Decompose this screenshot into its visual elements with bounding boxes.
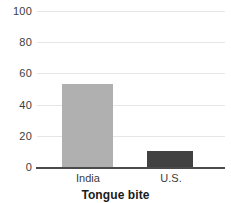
ytick-label-40: 40	[2, 100, 32, 111]
bar-chart: 100 80 60 40 20 0 India U.S. Tongue bite	[0, 0, 231, 203]
ytick-label-20: 20	[2, 131, 32, 142]
category-label-india: India	[52, 172, 124, 185]
ytick-label-80: 80	[2, 37, 32, 48]
ytick-label-100: 100	[2, 6, 32, 17]
ytick-label-60: 60	[2, 68, 32, 79]
bar-india	[62, 84, 113, 167]
ytick-label-0: 0	[2, 162, 32, 173]
bar-us	[147, 151, 193, 167]
x-axis-line	[36, 167, 225, 169]
x-axis-title: Tongue bite	[0, 188, 231, 202]
category-label-us: U.S.	[140, 172, 202, 185]
plot-area	[37, 11, 225, 167]
